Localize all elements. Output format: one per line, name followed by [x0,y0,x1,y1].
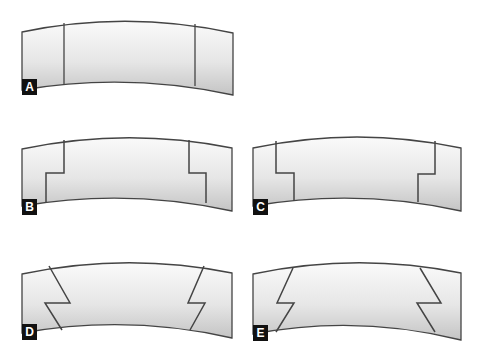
panel-label-a: A [22,79,37,95]
curved-band-outline [22,21,233,95]
diagram-canvas [0,0,480,355]
curved-band-outline [22,138,232,211]
panel-e [253,263,461,340]
panel-d [22,263,232,338]
panel-label-b: B [22,199,37,215]
curved-band-outline [253,263,461,340]
panel-label-e: E [253,325,268,341]
panel-b [22,138,232,211]
panel-label-c: C [253,199,268,215]
panel-label-d: D [22,324,37,340]
panel-a [22,21,233,95]
panel-c [253,137,461,211]
